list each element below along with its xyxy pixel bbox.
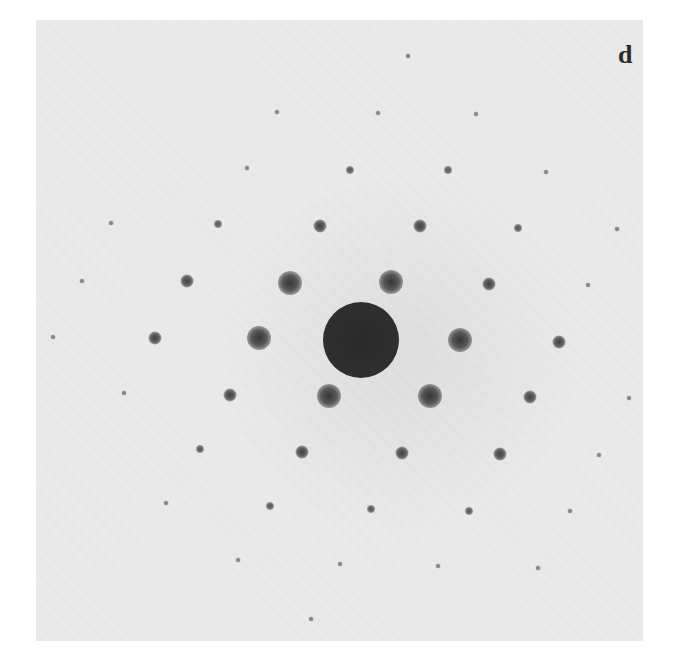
diffraction-spot: [544, 170, 549, 175]
diffraction-spot: [346, 166, 354, 174]
diffraction-spot: [597, 453, 602, 458]
diffraction-spot: [553, 336, 566, 349]
diffraction-spot: [536, 566, 541, 571]
diffraction-spot: [396, 447, 409, 460]
diffraction-spot: [51, 335, 56, 340]
diffraction-spot: [314, 220, 327, 233]
diffraction-spot: [309, 617, 314, 622]
diffraction-spot: [164, 501, 169, 506]
diffraction-spot: [627, 396, 632, 401]
diffraction-spot: [414, 220, 427, 233]
diffraction-spot: [245, 166, 250, 171]
diffraction-spot: [181, 275, 194, 288]
diffraction-spot: [236, 558, 241, 563]
diffraction-spot: [247, 326, 271, 350]
diffraction-spot: [406, 54, 411, 59]
panel-label: d: [618, 42, 632, 68]
diffraction-spot: [524, 391, 537, 404]
diffraction-spot: [214, 220, 222, 228]
diffraction-spot: [224, 389, 237, 402]
diffraction-spot: [367, 505, 375, 513]
diffraction-spot: [317, 384, 341, 408]
central-beam-spot: [323, 302, 399, 378]
diffraction-spot: [80, 279, 85, 284]
diffraction-spot: [465, 507, 473, 515]
diffraction-spot: [568, 509, 573, 514]
diffraction-spot: [338, 562, 343, 567]
diffraction-spot: [514, 224, 522, 232]
diffraction-pattern-image: d: [36, 20, 643, 641]
diffraction-spot: [436, 564, 441, 569]
diffraction-spot: [379, 270, 403, 294]
diffraction-spot: [296, 446, 309, 459]
diffraction-spot: [149, 332, 162, 345]
diffraction-spot: [483, 278, 496, 291]
diffraction-spot: [109, 221, 114, 226]
diffraction-spot: [494, 448, 507, 461]
diffraction-spot: [196, 445, 204, 453]
diffraction-spot: [448, 328, 472, 352]
central-halo: [216, 170, 586, 540]
diffraction-spot: [278, 271, 302, 295]
diffraction-spot: [418, 384, 442, 408]
diffraction-spot: [474, 112, 479, 117]
diffraction-spot: [122, 391, 127, 396]
diffraction-spot: [444, 166, 452, 174]
diffraction-spot: [266, 502, 274, 510]
diffraction-spot: [586, 283, 591, 288]
diffraction-spot: [376, 111, 381, 116]
diffraction-spot: [615, 227, 620, 232]
diffraction-spot: [275, 110, 280, 115]
